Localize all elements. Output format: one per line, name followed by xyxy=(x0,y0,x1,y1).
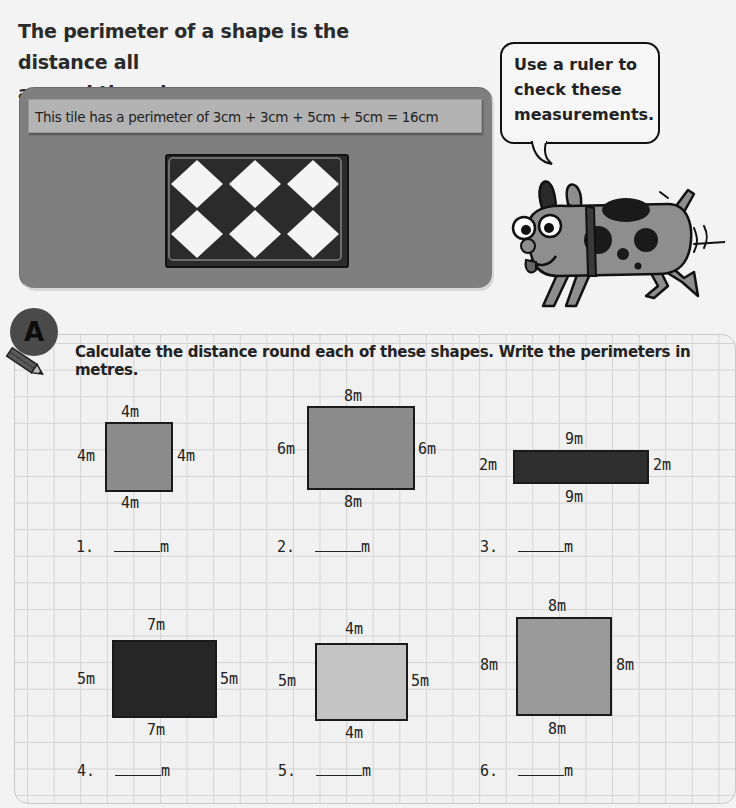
problem-2-bottom-label: 8m xyxy=(344,493,362,511)
problem-6-top-label: 8m xyxy=(548,597,566,615)
section-badge-label: A xyxy=(24,317,44,347)
speech-bubble: Use a ruler to check these measurements. xyxy=(500,42,660,144)
problem-4-bottom-label: 7m xyxy=(147,721,165,739)
problem-6-bottom-label: 8m xyxy=(548,720,566,738)
problem-1-right-label: 4m xyxy=(177,447,195,465)
tile-example-panel: This tile has a perimeter of 3cm + 3cm +… xyxy=(20,88,492,288)
problem-6-unit: m xyxy=(564,762,573,780)
problem-6-number: 6. xyxy=(480,762,498,780)
problem-2-answer-blank[interactable] xyxy=(315,537,361,552)
problem-3-left-label: 2m xyxy=(479,456,497,474)
problem-5-bottom-label: 4m xyxy=(345,724,363,742)
diamond-pattern-icon xyxy=(167,156,343,262)
problem-2-rectangle xyxy=(307,406,415,490)
intro-line-1: The perimeter of a shape is the distance… xyxy=(18,16,418,78)
problem-1-left-label: 4m xyxy=(77,447,95,465)
problem-4-rectangle xyxy=(112,640,217,718)
speech-line-3: measurements. xyxy=(514,102,646,127)
problem-3-unit: m xyxy=(564,538,573,556)
pencil-icon xyxy=(4,346,48,380)
problem-1-square xyxy=(105,422,173,492)
problem-2-top-label: 8m xyxy=(344,387,362,405)
problem-1-answer-blank[interactable] xyxy=(114,537,160,552)
problem-6-square xyxy=(516,617,612,716)
problem-3-rectangle xyxy=(513,450,649,484)
problem-6-answer-blank[interactable] xyxy=(518,761,564,776)
problem-5-top-label: 4m xyxy=(345,620,363,638)
problem-3-number: 3. xyxy=(480,538,498,556)
problem-6-left-label: 8m xyxy=(480,656,498,674)
checkered-tile-image xyxy=(165,154,349,268)
speech-tail-icon xyxy=(528,140,568,168)
problem-1-unit: m xyxy=(160,538,169,556)
problem-3-bottom-label: 9m xyxy=(565,488,583,506)
problem-4-answer-blank[interactable] xyxy=(115,761,161,776)
problem-2-right-label: 6m xyxy=(418,440,436,458)
problem-3-answer: 3.m xyxy=(480,537,573,556)
problem-1-answer: 1.m xyxy=(76,537,169,556)
problem-5-unit: m xyxy=(362,762,371,780)
instruction-text: Calculate the distance round each of the… xyxy=(75,343,725,379)
problem-1-top-label: 4m xyxy=(121,403,139,421)
problem-2-answer: 2.m xyxy=(277,537,370,556)
problem-2-number: 2. xyxy=(277,538,295,556)
problem-4-right-label: 5m xyxy=(220,670,238,688)
problem-3-top-label: 9m xyxy=(565,430,583,448)
tile-caption: This tile has a perimeter of 3cm + 3cm +… xyxy=(28,99,482,133)
problem-5-answer: 5.m xyxy=(278,761,371,780)
problem-5-answer-blank[interactable] xyxy=(316,761,362,776)
speech-line-2: check these xyxy=(514,77,646,102)
problem-3-right-label: 2m xyxy=(653,456,671,474)
problem-2-left-label: 6m xyxy=(277,440,295,458)
problem-6-right-label: 8m xyxy=(616,656,634,674)
problem-1-number: 1. xyxy=(76,538,94,556)
problem-4-top-label: 7m xyxy=(147,616,165,634)
running-dog-icon xyxy=(498,168,725,308)
speech-line-1: Use a ruler to xyxy=(514,52,646,77)
problem-3-answer-blank[interactable] xyxy=(518,537,564,552)
problem-5-rectangle xyxy=(315,643,408,721)
problem-4-number: 4. xyxy=(77,762,95,780)
problem-4-answer: 4.m xyxy=(77,761,170,780)
problem-2-unit: m xyxy=(361,538,370,556)
problem-6-answer: 6.m xyxy=(480,761,573,780)
problem-1-bottom-label: 4m xyxy=(121,494,139,512)
problem-5-right-label: 5m xyxy=(411,672,429,690)
problem-5-left-label: 5m xyxy=(278,672,296,690)
problem-5-number: 5. xyxy=(278,762,296,780)
problem-4-unit: m xyxy=(161,762,170,780)
problem-4-left-label: 5m xyxy=(77,670,95,688)
